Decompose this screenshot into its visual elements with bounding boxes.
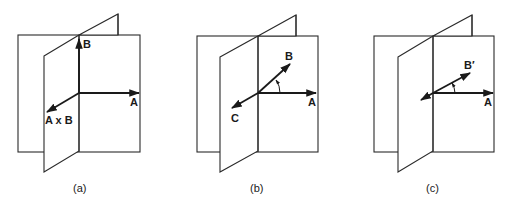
panel-a: A B A x B (a) bbox=[18, 14, 140, 194]
label-a: A bbox=[484, 96, 492, 108]
slanted-plane-top-tab bbox=[433, 15, 472, 36]
label-a: A bbox=[308, 96, 316, 108]
diagram-canvas: A B A x B (a) A B C (b) A B′ (c) bbox=[0, 0, 510, 206]
label-a: A bbox=[130, 96, 138, 108]
slanted-plane-top-tab bbox=[79, 14, 118, 35]
back-plane bbox=[374, 36, 494, 152]
label-b: B bbox=[285, 50, 293, 62]
caption-a: (a) bbox=[73, 182, 86, 194]
label-c: C bbox=[231, 112, 239, 124]
slanted-plane-top-tab bbox=[258, 15, 296, 36]
caption-c: (c) bbox=[426, 182, 439, 194]
panel-b: A B C (b) bbox=[197, 15, 318, 194]
slanted-plane bbox=[398, 36, 433, 172]
label-b-prime: B′ bbox=[464, 59, 475, 71]
caption-b: (b) bbox=[250, 182, 263, 194]
label-b: B bbox=[83, 38, 91, 50]
label-axb: A x B bbox=[45, 114, 73, 126]
panel-c: A B′ (c) bbox=[374, 15, 494, 194]
